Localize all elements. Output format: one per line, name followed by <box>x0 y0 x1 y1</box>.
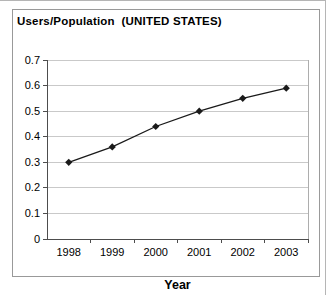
line-chart-plot: 00.10.20.30.40.50.60.7199819992000200120… <box>0 1 326 295</box>
svg-text:0.7: 0.7 <box>25 54 40 66</box>
svg-text:0.2: 0.2 <box>25 181 40 193</box>
svg-text:2000: 2000 <box>144 246 168 258</box>
svg-text:0.3: 0.3 <box>25 156 40 168</box>
svg-text:0.6: 0.6 <box>25 79 40 91</box>
svg-text:1998: 1998 <box>57 246 81 258</box>
chart-screenshot: 00.10.20.30.40.50.60.7199819992000200120… <box>0 0 326 295</box>
svg-text:1999: 1999 <box>100 246 124 258</box>
svg-text:2003: 2003 <box>274 246 298 258</box>
svg-text:0: 0 <box>34 233 40 245</box>
svg-text:2001: 2001 <box>187 246 211 258</box>
svg-text:0.4: 0.4 <box>25 130 40 142</box>
svg-text:0.1: 0.1 <box>25 207 40 219</box>
x-axis-title: Year <box>47 278 308 292</box>
chart-title: Users/Population (UNITED STATES) <box>17 15 222 27</box>
svg-text:2002: 2002 <box>231 246 255 258</box>
svg-text:0.5: 0.5 <box>25 105 40 117</box>
